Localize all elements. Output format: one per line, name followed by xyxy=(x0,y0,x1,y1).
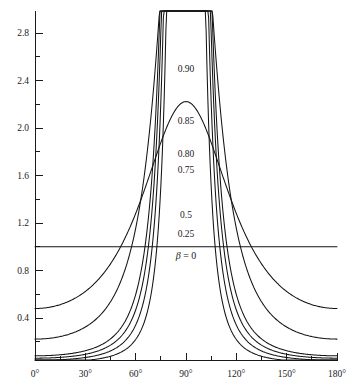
x-tick-label: 90° xyxy=(179,369,193,379)
x-tick-label: 0° xyxy=(31,369,40,379)
curve-label-0_5: 0.5 xyxy=(180,210,192,220)
y-tick-label: 1.6 xyxy=(17,171,29,181)
y-tick-label: 2.4 xyxy=(17,76,29,86)
curve-label-0_85: 0.85 xyxy=(178,116,195,126)
y-tick-label: 2.8 xyxy=(17,28,29,38)
curve-beta-0_25 xyxy=(35,102,337,309)
curve-label-0_25: 0.25 xyxy=(178,229,195,239)
curve-label-0_8: 0.80 xyxy=(178,149,195,159)
y-tick-label: 2.0 xyxy=(17,123,29,133)
curve-label-0_9: 0.90 xyxy=(178,64,195,74)
x-tick-label: 120° xyxy=(227,369,245,379)
x-tick-label: 150° xyxy=(278,369,296,379)
beta-zero-value: = 0 xyxy=(181,250,197,261)
x-tick-label: 30° xyxy=(79,369,93,379)
curve-beta-0_5 xyxy=(35,11,337,339)
phase-function-chart: 0.40.81.21.62.02.42.80°30°60°90°120°150°… xyxy=(0,0,353,387)
tick-labels: 0.40.81.21.62.02.42.80°30°60°90°120°150°… xyxy=(17,28,346,379)
y-tick-label: 1.2 xyxy=(17,218,29,228)
curve-annotations: β = 00.250.50.750.800.850.90 xyxy=(175,64,197,261)
x-tick-label: 60° xyxy=(129,369,143,379)
x-tick-label: 180° xyxy=(328,369,346,379)
y-tick-label: 0.8 xyxy=(17,266,29,276)
y-tick-label: 0.4 xyxy=(17,313,29,323)
curve-label-0_75: 0.75 xyxy=(178,165,195,175)
curve-label-beta-zero: β = 0 xyxy=(175,250,197,261)
chart-figure: 0.40.81.21.62.02.42.80°30°60°90°120°150°… xyxy=(0,0,353,387)
